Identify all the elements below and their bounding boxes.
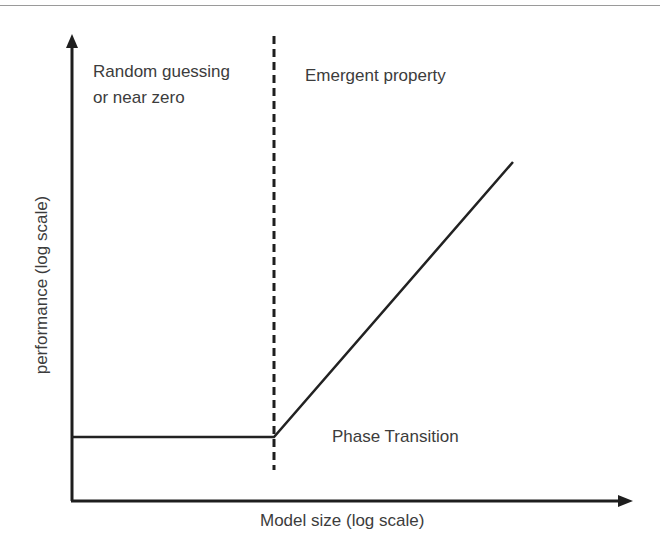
y-axis bbox=[66, 34, 78, 501]
y-axis-arrow-icon bbox=[66, 34, 78, 48]
region-left-label-line1: Random guessing bbox=[93, 59, 230, 85]
x-axis-label: Model size (log scale) bbox=[260, 508, 424, 534]
x-axis-arrow-icon bbox=[618, 495, 633, 507]
x-axis bbox=[71, 495, 633, 507]
y-axis-label: performance (log scale) bbox=[32, 196, 52, 375]
performance-curve bbox=[72, 162, 513, 437]
region-left-label-line2: or near zero bbox=[93, 85, 185, 111]
region-right-label: Emergent property bbox=[305, 63, 446, 89]
phase-transition-label: Phase Transition bbox=[332, 424, 459, 450]
